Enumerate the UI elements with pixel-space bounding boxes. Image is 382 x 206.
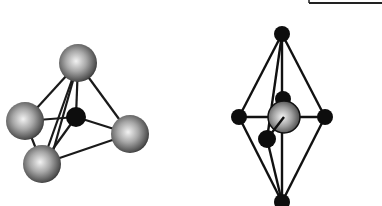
- octahedral-structure: [231, 26, 333, 206]
- octahedral-ligand-top: [274, 26, 290, 42]
- tetrahedral-ligand-right: [111, 115, 149, 153]
- tetrahedral-structure: [6, 44, 149, 183]
- octahedral-ligand-front: [258, 130, 276, 148]
- molecular-geometry-diagram: [0, 0, 382, 206]
- tetrahedral-ligand-bottom: [23, 145, 61, 183]
- octahedral-ligand-left: [231, 109, 247, 125]
- frame-fragment: [309, 0, 382, 3]
- octahedral-ligand-right: [317, 109, 333, 125]
- tetrahedral-central-atom: [66, 107, 86, 127]
- octahedral-ligand-bottom: [274, 194, 290, 206]
- tetrahedral-ligand-top: [59, 44, 97, 82]
- tetrahedral-ligand-left: [6, 102, 44, 140]
